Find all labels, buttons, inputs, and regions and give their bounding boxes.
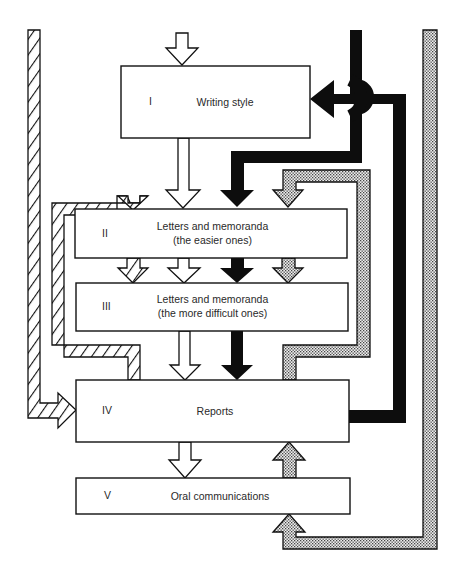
white-arrow-ii-iii xyxy=(168,258,200,283)
stage-v-title: Oral communications xyxy=(160,489,280,503)
stage-iii-title: Letters and memoranda xyxy=(140,292,285,306)
white-arrow-i-ii xyxy=(166,138,200,208)
stage-i-numeral: I xyxy=(149,95,152,107)
hatched-arrow-ii-iii xyxy=(118,258,148,283)
dotted-arrow-ii-iii xyxy=(273,258,303,283)
stage-iii-subtitle: (the more difficult ones) xyxy=(140,306,285,320)
white-arrow-iv-v xyxy=(169,442,201,478)
stage-ii-numeral: II xyxy=(102,227,108,239)
stage-ii-subtitle: (the easier ones) xyxy=(140,233,285,247)
black-arrow-ii-iii xyxy=(220,258,254,283)
black-arrow-iii-iv xyxy=(221,331,253,380)
stage-ii-title: Letters and memoranda xyxy=(140,219,285,233)
stage-v-numeral: V xyxy=(104,489,111,501)
stage-i-title: Writing style xyxy=(170,95,280,109)
stage-iv-numeral: IV xyxy=(102,404,112,416)
white-arrow-iii-iv xyxy=(170,331,200,380)
stage-iv-title: Reports xyxy=(170,404,260,418)
dotted-arrow-v-iv xyxy=(273,442,305,478)
white-arrow-entry xyxy=(166,33,198,65)
stage-iii-numeral: III xyxy=(102,300,111,312)
